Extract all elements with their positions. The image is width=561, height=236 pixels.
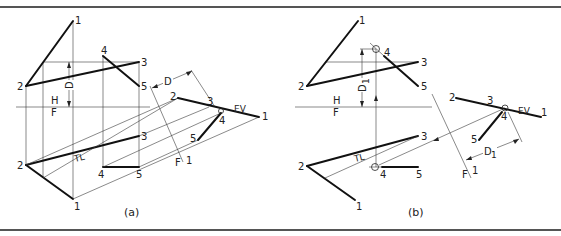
projection-lines-aux-a <box>26 98 259 199</box>
front-pt2-b: 2 <box>298 161 304 172</box>
front-pt4-b: 4 <box>380 169 386 180</box>
projection-lines-vertical-a <box>26 21 139 199</box>
edge-view-label-b: EV <box>518 106 531 116</box>
top-pt3-a: 3 <box>141 57 147 68</box>
dimension-label-d-top-a: D <box>64 81 75 89</box>
front-view-b <box>307 136 418 200</box>
top-pt4-a: 4 <box>101 45 107 56</box>
front-pt3-b: 3 <box>421 131 427 142</box>
fold-label-f-aux-b: F <box>462 169 468 180</box>
top-pt2-a: 2 <box>17 81 23 92</box>
front-pt1-b: 1 <box>356 201 362 212</box>
fold-label-f-b: F <box>333 107 339 118</box>
aux-pt2-b: 2 <box>449 92 455 103</box>
descriptive-geometry-figure: H F D 1 2 3 4 5 <box>0 0 561 236</box>
aux-pt3-a: 3 <box>207 96 213 107</box>
fold-label-1-aux-b: 1 <box>472 165 478 176</box>
panel-a: H F D 1 2 3 4 5 <box>16 15 268 219</box>
aux-pt2-a: 2 <box>170 91 176 102</box>
dimension-label-d1-top-b: D <box>357 84 368 92</box>
aux-pt3-b: 3 <box>487 95 493 106</box>
caption-b: (b) <box>408 206 424 219</box>
top-pt2-b: 2 <box>298 81 304 92</box>
fold-label-h-a: H <box>51 95 59 106</box>
aux-pt4-b: 4 <box>501 111 507 122</box>
dimension-label-d-aux-a: D <box>164 76 172 87</box>
fold-label-h-b: H <box>333 95 341 106</box>
aux-pt5-a: 5 <box>190 133 196 144</box>
aux-pt5-b: 5 <box>471 134 477 145</box>
fold-label-f-aux-a: F <box>175 157 181 168</box>
top-pt4-b: 4 <box>384 47 390 58</box>
front-pt2-a: 2 <box>17 160 23 171</box>
front-view-a <box>26 98 178 199</box>
dimension-d1-top-b: D 1 <box>357 49 371 107</box>
edge-view-label-a: EV <box>234 104 247 114</box>
aux-pt1-a: 1 <box>262 111 268 122</box>
top-pt1-b: 1 <box>359 15 365 26</box>
top-pt3-b: 3 <box>421 57 427 68</box>
true-length-label-b: TL <box>352 152 366 164</box>
front-pt4-a: 4 <box>98 169 104 180</box>
aux-pt4-a: 4 <box>219 115 225 126</box>
dimension-sub-aux-b: 1 <box>491 150 497 160</box>
fold-label-1-aux-a: 1 <box>186 155 192 166</box>
top-pt1-a: 1 <box>75 15 81 26</box>
fold-label-f-a: F <box>51 107 57 118</box>
caption-a: (a) <box>124 206 139 219</box>
top-pt5-a: 5 <box>141 81 147 92</box>
dimension-sub-top-b: 1 <box>361 78 371 84</box>
dimension-d-aux-a: D <box>152 70 215 107</box>
f1-fold-line-b <box>432 94 471 178</box>
front-pt1-a: 1 <box>74 201 80 212</box>
front-pt5-b: 5 <box>416 169 422 180</box>
aux-pt1-b: 1 <box>541 107 547 118</box>
panel-b: H F D 1 1 2 3 <box>295 15 547 219</box>
dimension-d-top-a: D <box>64 62 75 107</box>
true-length-label-a: TL <box>72 152 86 164</box>
aux-view-b <box>456 98 541 140</box>
top-pt5-b: 5 <box>421 81 427 92</box>
